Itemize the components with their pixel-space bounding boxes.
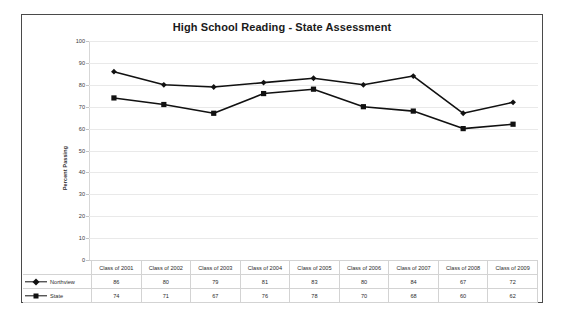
table-header-row: Class of 2001Class of 2002Class of 2003C… bbox=[23, 261, 538, 275]
cell-state-2: 67 bbox=[191, 289, 241, 303]
data-point-northview-1 bbox=[161, 82, 167, 88]
column-header-0: Class of 2001 bbox=[92, 261, 142, 275]
data-point-state-1 bbox=[161, 102, 166, 107]
cell-state-5: 70 bbox=[339, 289, 389, 303]
cell-northview-1: 80 bbox=[141, 275, 191, 289]
cell-northview-0: 86 bbox=[92, 275, 142, 289]
y-tick-label-20: 20 bbox=[79, 213, 85, 219]
table-row: Northview868079818380846772 bbox=[23, 275, 538, 289]
cell-northview-2: 79 bbox=[191, 275, 241, 289]
data-table: Class of 2001Class of 2002Class of 2003C… bbox=[23, 260, 538, 303]
cell-northview-3: 81 bbox=[240, 275, 290, 289]
data-table-body: Northview868079818380846772State74716776… bbox=[23, 275, 538, 303]
cell-northview-6: 84 bbox=[389, 275, 439, 289]
data-point-state-3 bbox=[261, 91, 266, 96]
data-point-northview-4 bbox=[311, 75, 317, 81]
y-tick-label-50: 50 bbox=[79, 148, 85, 154]
legend-item-state: State bbox=[23, 289, 92, 303]
legend-item-northview: Northview bbox=[23, 275, 92, 289]
legend-label: State bbox=[50, 293, 63, 299]
plot-area: 1009080706050403020100 bbox=[89, 41, 538, 260]
column-header-1: Class of 2002 bbox=[141, 261, 191, 275]
data-point-northview-2 bbox=[211, 84, 217, 90]
column-header-3: Class of 2004 bbox=[240, 261, 290, 275]
cell-northview-5: 80 bbox=[339, 275, 389, 289]
cell-northview-8: 72 bbox=[488, 275, 538, 289]
cell-northview-4: 83 bbox=[290, 275, 340, 289]
data-point-state-5 bbox=[361, 104, 366, 109]
y-tick-label-40: 40 bbox=[79, 169, 85, 175]
y-tick-label-100: 100 bbox=[76, 38, 85, 44]
data-point-northview-8 bbox=[510, 99, 516, 105]
y-tick-label-10: 10 bbox=[79, 235, 85, 241]
cell-state-0: 74 bbox=[92, 289, 142, 303]
square-marker-icon bbox=[25, 292, 47, 300]
cell-state-8: 62 bbox=[488, 289, 538, 303]
diamond-marker-icon bbox=[25, 278, 47, 286]
chart-frame: High School Reading - State Assessment P… bbox=[21, 14, 543, 303]
y-tick-label-30: 30 bbox=[79, 191, 85, 197]
y-tick-label-70: 70 bbox=[79, 104, 85, 110]
cell-state-4: 78 bbox=[290, 289, 340, 303]
data-point-state-0 bbox=[111, 95, 116, 100]
cell-state-3: 76 bbox=[240, 289, 290, 303]
y-tick-label-60: 60 bbox=[79, 126, 85, 132]
table-row: State747167767870686062 bbox=[23, 289, 538, 303]
column-header-7: Class of 2008 bbox=[438, 261, 488, 275]
legend-label: Northview bbox=[50, 279, 75, 285]
legend-header-cell bbox=[23, 261, 92, 275]
cell-state-1: 71 bbox=[141, 289, 191, 303]
chart-title: High School Reading - State Assessment bbox=[22, 21, 542, 33]
column-header-2: Class of 2003 bbox=[191, 261, 241, 275]
data-point-northview-5 bbox=[360, 82, 366, 88]
series-line-state bbox=[114, 89, 513, 128]
data-table-header: Class of 2001Class of 2002Class of 2003C… bbox=[23, 261, 538, 275]
cell-northview-7: 67 bbox=[438, 275, 488, 289]
data-point-state-6 bbox=[411, 108, 416, 113]
data-point-state-2 bbox=[211, 111, 216, 116]
data-point-northview-0 bbox=[111, 69, 117, 75]
column-header-5: Class of 2006 bbox=[339, 261, 389, 275]
y-tick-label-80: 80 bbox=[79, 82, 85, 88]
column-header-8: Class of 2009 bbox=[488, 261, 538, 275]
data-point-state-8 bbox=[510, 122, 515, 127]
data-point-state-4 bbox=[311, 87, 316, 92]
column-header-6: Class of 2007 bbox=[389, 261, 439, 275]
data-point-state-7 bbox=[461, 126, 466, 131]
cell-state-7: 60 bbox=[438, 289, 488, 303]
y-tick-label-90: 90 bbox=[79, 60, 85, 66]
y-axis-title: Percent Passing bbox=[62, 123, 68, 213]
cell-state-6: 68 bbox=[389, 289, 439, 303]
series-lines bbox=[89, 41, 538, 260]
data-point-northview-3 bbox=[261, 80, 267, 86]
column-header-4: Class of 2005 bbox=[290, 261, 340, 275]
